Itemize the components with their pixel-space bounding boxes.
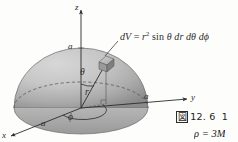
- caption-line: 図12. 6 1: [176, 111, 238, 124]
- figure-caption: 図12. 6 1: [176, 111, 238, 124]
- density-expression: ρ = 3M: [194, 128, 225, 139]
- figure-page: z y x a a a θ r ϕ dV = r2 sin θ dr dθ dϕ…: [0, 0, 238, 142]
- radius-label-y: a: [144, 92, 149, 101]
- polar-angle-label: θ: [80, 68, 85, 78]
- caption-trailing: 1: [222, 111, 228, 122]
- formula-dr: dr: [174, 31, 183, 42]
- formula-dV: dV: [120, 31, 131, 42]
- x-axis-label: x: [2, 131, 6, 140]
- figure-mark-glyph: 図: [176, 111, 188, 123]
- formula-dtheta: dθ: [186, 31, 196, 42]
- radius-label: r: [85, 88, 89, 98]
- formula-exponent: 2: [146, 30, 149, 37]
- formula-leader-line: [105, 41, 118, 56]
- y-axis-label: y: [191, 93, 195, 102]
- azimuthal-angle-label: ϕ: [68, 113, 73, 123]
- radius-label-x: a: [41, 119, 46, 128]
- figure-number: 12. 6: [190, 111, 215, 122]
- equatorial-disc-front: [14, 108, 148, 134]
- radius-label-z: a: [68, 42, 73, 51]
- formula-theta: θ: [167, 31, 172, 42]
- z-axis-label: z: [75, 3, 79, 12]
- volume-element-formula: dV = r2 sin θ dr dθ dϕ: [120, 30, 209, 42]
- formula-sin: sin: [152, 31, 164, 42]
- page-bottom-clip: [0, 141, 238, 142]
- formula-equals: =: [134, 31, 140, 42]
- formula-dphi: dϕ: [199, 31, 209, 42]
